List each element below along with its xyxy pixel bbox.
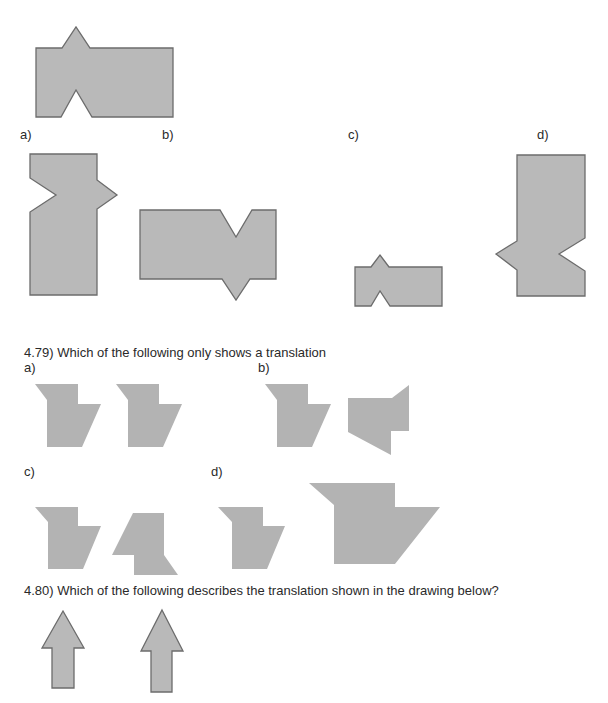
q480-question: 4.80) Which of the following describes t…	[24, 583, 499, 598]
option-c-shape	[355, 255, 442, 306]
q478-label-c: c)	[348, 127, 359, 142]
q479-b-shape-1	[265, 384, 331, 447]
original-shape	[36, 27, 173, 117]
option-d-shape	[496, 155, 585, 296]
q479-c-shape-2	[112, 513, 178, 575]
q478-label-d: d)	[537, 127, 549, 142]
option-b-shape	[140, 210, 276, 300]
q479-label-d: d)	[211, 464, 223, 479]
q479-c-shape-1	[35, 507, 101, 569]
q478-label-a: a)	[20, 127, 32, 142]
q478-label-b: b)	[162, 127, 174, 142]
up-arrow-translated	[141, 610, 183, 692]
q479-label-b: b)	[258, 360, 270, 375]
q479-b-shape-2	[348, 385, 409, 455]
q479-a-shape-1	[35, 384, 101, 447]
q479-label-c: c)	[24, 464, 35, 479]
q479-question: 4.79) Which of the following only shows …	[24, 345, 326, 360]
up-arrow-original	[42, 611, 84, 688]
q479-label-a: a)	[24, 360, 36, 375]
q479-d-shape-1	[218, 507, 285, 569]
q479-a-shape-2	[116, 384, 182, 447]
option-a-shape	[30, 154, 117, 295]
q479-d-shape-2	[309, 483, 440, 564]
